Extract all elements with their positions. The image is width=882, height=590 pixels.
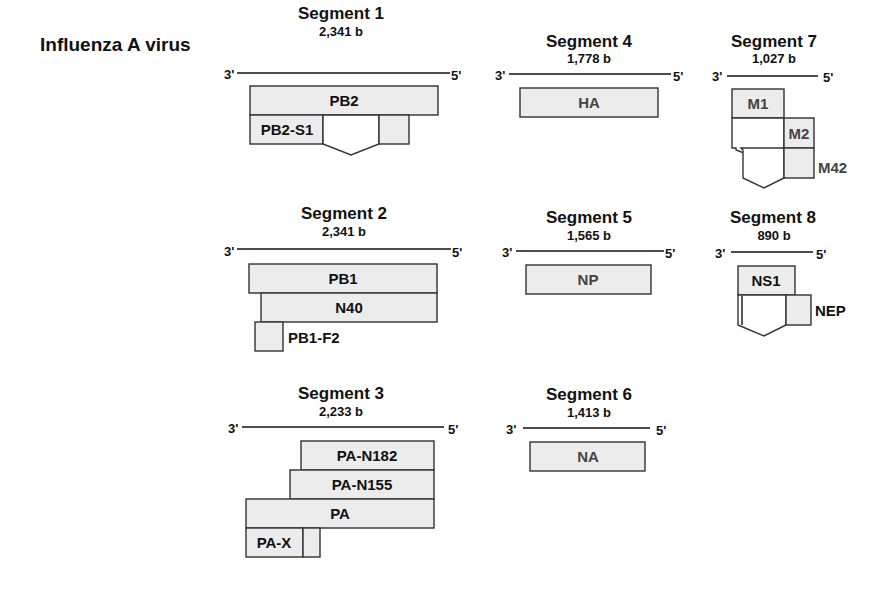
protein-label-pa-n182: PA-N182: [337, 447, 398, 464]
segment-5: Segment 5 1,565 b 3' 5' NP: [502, 208, 675, 294]
protein-label-nep: NEP: [815, 302, 846, 319]
protein-label-m1: M1: [748, 95, 769, 112]
protein-label-pb1: PB1: [328, 270, 357, 287]
protein-label-ns1: NS1: [751, 272, 780, 289]
protein-label-pa: PA: [330, 505, 350, 522]
segment-7-5prime: 5': [823, 70, 833, 85]
segment-3-5prime: 5': [448, 422, 458, 437]
segment-7-3prime: 3': [712, 69, 722, 84]
segment-8-title: Segment 8: [730, 208, 816, 227]
segment-6-length: 1,413 b: [567, 405, 611, 420]
protein-label-ha: HA: [578, 94, 600, 111]
segment-2-3prime: 3': [224, 244, 234, 259]
protein-label-pb1-f2: PB1-F2: [288, 329, 340, 346]
segment-8-3prime: 3': [715, 246, 725, 261]
segment-6-5prime: 5': [656, 423, 666, 438]
protein-label-pa-x: PA-X: [257, 534, 292, 551]
segment-3: Segment 3 2,233 b 3' 5' PA-N182 PA-N155 …: [228, 384, 458, 557]
segment-4-length: 1,778 b: [567, 51, 611, 66]
segment-5-5prime: 5': [665, 246, 675, 261]
segment-4-3prime: 3': [495, 68, 505, 83]
segment-7-title: Segment 7: [731, 32, 817, 51]
protein-label-m42: M42: [818, 159, 847, 176]
segment-1-length: 2,341 b: [319, 24, 363, 39]
genome-diagram: Influenza A virus Segment 1 2,341 b 3' 5…: [0, 0, 882, 590]
segment-4-title: Segment 4: [546, 32, 633, 51]
protein-box-pb1-f2: [255, 322, 283, 351]
segment-2-title: Segment 2: [301, 204, 387, 223]
segment-8-length: 890 b: [757, 228, 790, 243]
splice-intron-pb2: [323, 115, 379, 155]
protein-box-nep: [786, 295, 811, 325]
segment-7-length: 1,027 b: [752, 51, 796, 66]
segment-8: Segment 8 890 b 3' 5' NS1 NEP: [715, 208, 846, 336]
segment-3-length: 2,233 b: [319, 404, 363, 419]
segment-5-title: Segment 5: [546, 208, 632, 227]
virus-label: Influenza A virus: [40, 34, 191, 55]
protein-label-m2: M2: [789, 125, 810, 142]
segment-3-3prime: 3': [228, 421, 238, 436]
segment-5-length: 1,565 b: [567, 228, 611, 243]
protein-box-pb2-s1-exon2: [379, 115, 409, 144]
segment-6-title: Segment 6: [546, 385, 632, 404]
protein-label-pb2-s1: PB2-S1: [261, 121, 314, 138]
segment-2: Segment 2 2,341 b 3' 5' PB1 N40 PB1-F2: [224, 204, 462, 351]
protein-label-n40: N40: [335, 299, 363, 316]
segment-1-3prime: 3': [224, 67, 234, 82]
segment-1-5prime: 5': [451, 68, 461, 83]
segment-3-title: Segment 3: [298, 384, 384, 403]
protein-label-pb2: PB2: [329, 92, 358, 109]
protein-box-m42: [784, 148, 814, 178]
segment-4: Segment 4 1,778 b 3' 5' HA: [495, 32, 683, 117]
splice-intron-m42: [741, 148, 784, 188]
splice-intron-nep: [738, 295, 786, 336]
protein-label-pa-n155: PA-N155: [332, 476, 393, 493]
segment-6: Segment 6 1,413 b 3' 5' NA: [506, 385, 666, 471]
segment-2-length: 2,341 b: [322, 224, 366, 239]
protein-label-na: NA: [577, 448, 599, 465]
segment-1-title: Segment 1: [298, 4, 384, 23]
segment-7: Segment 7 1,027 b 3' 5' M1 M2 M42: [712, 32, 847, 188]
segment-6-3prime: 3': [506, 422, 516, 437]
protein-label-np: NP: [578, 271, 599, 288]
segment-2-5prime: 5': [452, 245, 462, 260]
segment-8-5prime: 5': [816, 247, 826, 262]
segment-4-5prime: 5': [673, 69, 683, 84]
segment-5-3prime: 3': [502, 245, 512, 260]
protein-box-pa-x-frameshift: [303, 528, 320, 557]
segment-1: Segment 1 2,341 b 3' 5' PB2 PB2-S1: [224, 4, 461, 155]
